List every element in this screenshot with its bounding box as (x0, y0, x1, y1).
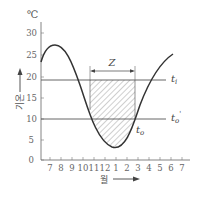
y-tick-0: 0 (29, 155, 34, 165)
svg-text:8: 8 (58, 163, 63, 173)
y-tick-15: 15 (26, 93, 37, 103)
x-tick-labels: 7 8 9 10 11 12 1 2 3 4 5 6 7 (47, 163, 184, 173)
label-ti: ti (171, 73, 177, 86)
svg-text:2: 2 (124, 163, 129, 173)
svg-text:7: 7 (179, 163, 184, 173)
svg-text:1: 1 (113, 163, 118, 173)
right-arrowhead-icon (133, 177, 140, 182)
label-to-curve: to (136, 124, 144, 137)
svg-text:12: 12 (100, 163, 111, 173)
x-axis-label: 월 (100, 174, 108, 185)
y-axis-label-group: 기온 (15, 68, 25, 110)
svg-text:5: 5 (157, 163, 162, 173)
svg-text:4: 4 (146, 163, 151, 173)
z-label: Z (108, 57, 117, 68)
heating-period-diagram: ℃ 0 5 10 15 20 25 30 기온 7 8 9 (0, 0, 202, 197)
z-right-arrowhead-icon (130, 69, 135, 72)
svg-text:10: 10 (78, 163, 89, 173)
y-tick-20: 20 (26, 72, 37, 82)
unit-label: ℃ (27, 9, 38, 20)
y-tick-5: 5 (29, 135, 34, 145)
y-tick-25: 25 (26, 50, 37, 60)
z-dimension: Z (90, 57, 135, 80)
hatched-heating-region (85, 75, 140, 150)
svg-text:9: 9 (69, 163, 74, 173)
x-axis-label-group: 월 (100, 174, 140, 185)
x-ticks (50, 157, 182, 160)
svg-text:11: 11 (89, 163, 100, 173)
svg-text:6: 6 (168, 163, 173, 173)
up-arrowhead-icon (18, 68, 23, 75)
z-left-arrowhead-icon (90, 69, 95, 72)
y-tick-30: 30 (26, 28, 37, 38)
label-to-prime: to' (171, 110, 181, 125)
y-tick-10: 10 (26, 114, 37, 124)
svg-text:7: 7 (47, 163, 52, 173)
svg-text:3: 3 (135, 163, 140, 173)
y-axis-label: 기온 (15, 94, 25, 110)
